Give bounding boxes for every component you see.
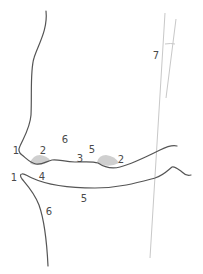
label-lower-4: 4 bbox=[39, 172, 45, 182]
diagram-svg bbox=[0, 0, 203, 274]
label-upper-1: 1 bbox=[13, 146, 19, 156]
label-lower-5: 5 bbox=[81, 194, 87, 204]
label-upper-3: 3 bbox=[77, 154, 83, 164]
angle-arc-7 bbox=[165, 44, 175, 45]
reference-line-angled bbox=[166, 19, 176, 98]
label-upper-6: 6 bbox=[62, 135, 68, 145]
label-upper-5: 5 bbox=[89, 145, 95, 155]
diagram-canvas: 1 2 6 3 5 2 1 4 5 6 7 bbox=[0, 0, 203, 274]
outlines bbox=[19, 11, 191, 266]
label-upper-2-right: 2 bbox=[118, 155, 124, 165]
label-lower-1: 1 bbox=[11, 173, 17, 183]
label-angle-7: 7 bbox=[153, 51, 159, 61]
label-lower-6: 6 bbox=[46, 207, 52, 217]
shaded-regions bbox=[30, 155, 119, 166]
label-upper-2-left: 2 bbox=[40, 146, 46, 156]
